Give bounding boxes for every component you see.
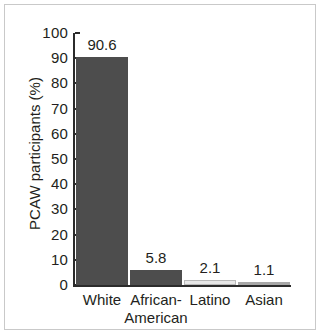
x-axis-label-line: American [111, 309, 201, 327]
y-tick-label: 10 [28, 252, 68, 267]
bar [184, 280, 236, 285]
bar [130, 270, 182, 285]
y-tick-label: 100 [28, 25, 68, 40]
bar-group: 1.1 [238, 33, 290, 285]
y-tick-label: 90 [28, 50, 68, 65]
y-tick-label: 80 [28, 75, 68, 90]
plot-area: 90.65.82.11.1 [75, 33, 291, 285]
y-tick-label: 20 [28, 227, 68, 242]
bar-group: 5.8 [130, 33, 182, 285]
y-tick-label: 70 [28, 101, 68, 116]
bar-group: 2.1 [184, 33, 236, 285]
bar-value-label: 1.1 [254, 262, 275, 277]
y-tick-label: 50 [28, 151, 68, 166]
y-tick-label: 0 [28, 277, 68, 292]
x-axis-line [73, 285, 291, 287]
x-axis-label: Asian [219, 291, 309, 309]
y-tick-label: 30 [28, 201, 68, 216]
bar-value-label: 90.6 [87, 37, 116, 52]
y-tick-label: 40 [28, 176, 68, 191]
x-axis-label-line: Asian [219, 291, 309, 309]
bar-group: 90.6 [76, 33, 128, 285]
bar [238, 282, 290, 285]
chart-figure: PCAW participants (%) 100908070605040302… [0, 0, 320, 334]
bar-value-label: 2.1 [200, 260, 221, 275]
bar-value-label: 5.8 [146, 250, 167, 265]
bar [76, 57, 128, 285]
y-tick-label: 60 [28, 126, 68, 141]
